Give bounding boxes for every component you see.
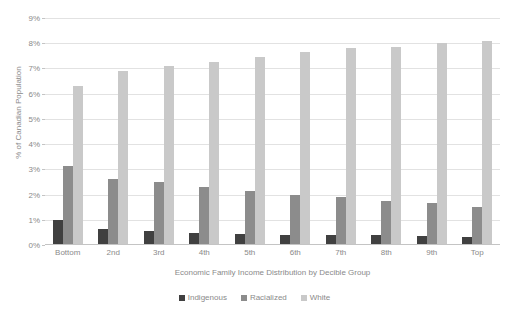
bar-racialized-bottom <box>63 166 73 245</box>
bar-group <box>318 18 364 245</box>
plot-area: 0%1%2%3%4%5%6%7%8%9% <box>45 18 500 245</box>
bar-racialized-top <box>472 207 482 245</box>
bar-racialized-9th <box>427 203 437 245</box>
y-axis-tick-label: 2% <box>28 190 40 199</box>
x-axis-tick-label: 9th <box>409 248 455 257</box>
bar-indigenous-bottom <box>53 220 63 245</box>
y-axis-tick-label: 3% <box>28 165 40 174</box>
bar-racialized-2nd <box>108 179 118 245</box>
axis-baseline <box>45 244 500 245</box>
bar-white-bottom <box>73 86 83 245</box>
legend-item-indigenous[interactable]: Indigenous <box>179 293 227 302</box>
bar-group <box>409 18 455 245</box>
bar-racialized-3rd <box>154 182 164 245</box>
x-axis-tick-label: 4th <box>182 248 228 257</box>
legend-swatch-icon <box>301 295 307 301</box>
x-axis-tick-label: 5th <box>227 248 273 257</box>
bar-group <box>91 18 137 245</box>
bar-white-4th <box>209 62 219 245</box>
bar-group <box>227 18 273 245</box>
bar-white-8th <box>391 47 401 245</box>
legend-item-white[interactable]: White <box>301 293 330 302</box>
legend-item-racialized[interactable]: Racialized <box>241 293 287 302</box>
bar-racialized-7th <box>336 197 346 245</box>
y-axis-tick-label: 1% <box>28 215 40 224</box>
x-axis-tick-label: Bottom <box>45 248 91 257</box>
bar-group <box>364 18 410 245</box>
bar-white-6th <box>300 52 310 245</box>
legend-label: Indigenous <box>188 293 227 302</box>
y-axis-tick-label: 9% <box>28 14 40 23</box>
y-axis-title: % of Canadian Population <box>14 48 23 178</box>
x-axis-tick-label: Top <box>455 248 501 257</box>
bar-group <box>273 18 319 245</box>
legend-swatch-icon <box>241 295 247 301</box>
bar-white-3rd <box>164 66 174 245</box>
legend-label: Racialized <box>250 293 287 302</box>
bars-layer <box>45 18 500 245</box>
bar-white-top <box>482 41 492 245</box>
bar-white-2nd <box>118 71 128 245</box>
bar-racialized-5th <box>245 191 255 245</box>
x-axis-title: Economic Family Income Distribution by D… <box>45 268 500 277</box>
bar-racialized-6th <box>290 195 300 245</box>
legend-label: White <box>310 293 330 302</box>
bar-group <box>136 18 182 245</box>
x-axis-tick-label: 6th <box>273 248 319 257</box>
bar-racialized-4th <box>199 187 209 245</box>
y-axis-tick-label: 0% <box>28 241 40 250</box>
x-axis-tick-label: 3rd <box>136 248 182 257</box>
x-axis-tick-labels: Bottom2nd3rd4th5th6th7th8th9thTop <box>45 248 500 257</box>
y-axis-tick-label: 8% <box>28 39 40 48</box>
bar-white-7th <box>346 48 356 245</box>
y-axis-tick-mark <box>42 245 45 246</box>
bar-chart: % of Canadian Population 0%1%2%3%4%5%6%7… <box>0 0 509 318</box>
bar-white-5th <box>255 57 265 245</box>
y-axis-tick-label: 4% <box>28 140 40 149</box>
legend-swatch-icon <box>179 295 185 301</box>
bar-group <box>182 18 228 245</box>
bar-white-9th <box>437 43 447 245</box>
bar-indigenous-2nd <box>98 229 108 245</box>
bar-racialized-8th <box>381 201 391 245</box>
y-axis-tick-label: 5% <box>28 114 40 123</box>
bar-group <box>45 18 91 245</box>
y-axis-tick-label: 7% <box>28 64 40 73</box>
bar-group <box>455 18 501 245</box>
x-axis-tick-label: 7th <box>318 248 364 257</box>
chart-legend: IndigenousRacializedWhite <box>0 293 509 302</box>
x-axis-tick-label: 8th <box>364 248 410 257</box>
bar-indigenous-3rd <box>144 231 154 245</box>
x-axis-tick-label: 2nd <box>91 248 137 257</box>
y-axis-tick-label: 6% <box>28 89 40 98</box>
